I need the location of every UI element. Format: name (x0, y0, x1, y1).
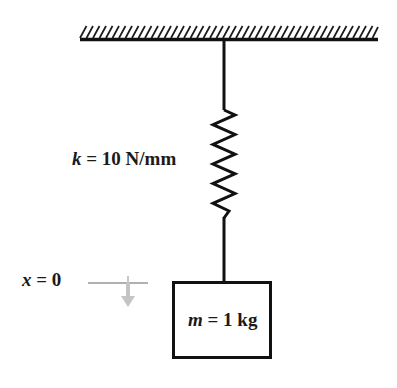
datum-label: x = 0 (22, 270, 61, 289)
mass-equals: = (208, 309, 219, 330)
ceiling-hatch-marks (80, 26, 378, 38)
mass-unit: kg (237, 309, 257, 330)
spring-constant-symbol: k (72, 148, 82, 169)
mass-symbol: m (188, 309, 203, 330)
datum-value: 0 (52, 269, 62, 290)
fixed-support-ceiling (80, 26, 378, 40)
displacement-arrow-head (121, 296, 135, 307)
mass-label: m = 1 kg (188, 310, 257, 329)
datum-symbol: x (22, 269, 32, 290)
mass-value: 1 (223, 309, 233, 330)
equilibrium-reference-marker (88, 276, 148, 307)
datum-equals: = (36, 269, 47, 290)
spring-mass-diagram: k = 10 N/mm x = 0 m = 1 kg (0, 0, 397, 388)
spring-constant-value: 10 (102, 148, 121, 169)
spring-constant-equals: = (86, 148, 97, 169)
spring-constant-label: k = 10 N/mm (72, 149, 176, 168)
coil-spring (213, 110, 235, 218)
spring-constant-unit: N/mm (126, 148, 177, 169)
